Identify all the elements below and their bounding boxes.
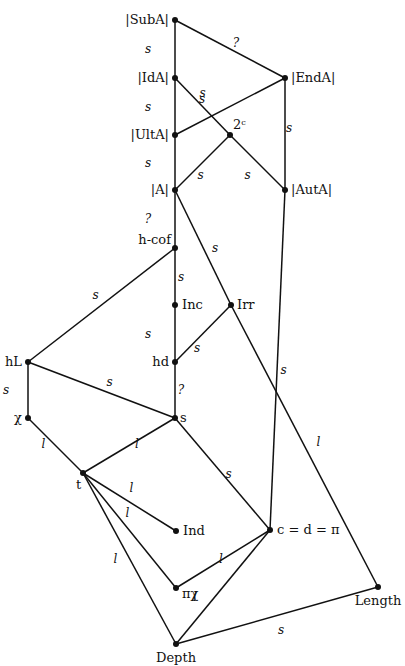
edge-label: s — [145, 327, 151, 341]
node-dot-s — [172, 415, 178, 421]
node-dot-IdA — [172, 75, 178, 81]
edge-label: s — [145, 42, 151, 56]
node-label-hL: hL — [5, 354, 22, 369]
edge-2c-AutA — [230, 135, 285, 190]
node-label-s: s — [180, 410, 187, 425]
edge-label: ? — [145, 212, 152, 226]
edge-label: s — [197, 168, 203, 182]
edge-hcof-hL — [28, 248, 175, 362]
node-label-hd: hd — [152, 354, 169, 369]
edge-label: s — [194, 341, 200, 355]
edge-label: l — [126, 506, 130, 520]
edge-2c-A — [175, 135, 230, 190]
edge-label: ? — [233, 36, 240, 50]
edge-label: s — [280, 363, 286, 377]
node-label-Ind: Ind — [183, 523, 205, 538]
nodes-layer: |SubA||IdA||EndA||UltA|2ᶜ|A||AutA|h-cofI… — [5, 12, 402, 665]
node-dot-pichi — [173, 585, 179, 591]
edge-Irr-hd — [175, 305, 231, 362]
edge-hL-s — [28, 362, 175, 418]
edge-label: s — [145, 156, 151, 170]
edges-layer — [28, 20, 378, 644]
node-dot-EndA — [282, 75, 288, 81]
edge-label: s — [278, 623, 284, 637]
node-dot-hL — [25, 359, 31, 365]
node-label-hcof: h-cof — [138, 232, 172, 247]
node-dot-chi — [25, 415, 31, 421]
edge-AutA-cdpi — [270, 190, 285, 530]
node-label-AutA: |AutA| — [291, 182, 332, 197]
node-dot-UltA — [172, 132, 178, 138]
edge-t-Depth — [83, 473, 176, 644]
edge-label: ? — [178, 383, 185, 397]
node-dot-AutA — [282, 187, 288, 193]
edge-s-t — [83, 418, 175, 473]
edge-label: s — [106, 375, 112, 389]
edge-label: s — [225, 467, 231, 481]
node-label-2c: 2ᶜ — [233, 117, 246, 132]
edge-label: s — [3, 383, 9, 397]
edge-label: s — [178, 270, 184, 284]
node-label-IdA: |IdA| — [137, 70, 169, 85]
edge-label: s — [199, 92, 205, 106]
node-dot-hd — [172, 359, 178, 365]
node-dot-hcof — [172, 245, 178, 251]
node-label-SubA: |SubA| — [125, 12, 169, 27]
node-dot-Depth — [173, 641, 179, 647]
node-dot-Irr — [228, 302, 234, 308]
node-dot-2c — [227, 132, 233, 138]
node-label-A: |A| — [151, 182, 169, 197]
edge-pichi-cdpi — [176, 530, 270, 588]
edge-SubA-EndA — [175, 20, 285, 78]
edge-label: l — [219, 552, 223, 566]
edge-label: s — [145, 100, 151, 114]
hasse-diagram: s?sssssss?sssssl?sssllsllllls |SubA||IdA… — [0, 0, 405, 666]
node-dot-t — [80, 470, 86, 476]
node-label-t: t — [76, 477, 82, 492]
node-label-pichi: πχ — [182, 586, 199, 601]
edge-label: l — [114, 552, 118, 566]
node-dot-A — [172, 187, 178, 193]
node-dot-Ind — [173, 528, 179, 534]
node-label-Irr: Irr — [237, 297, 255, 312]
node-dot-SubA — [172, 17, 178, 23]
edge-label: s — [92, 288, 98, 302]
node-label-cdpi: c = d = π — [277, 522, 340, 537]
edge-label: l — [130, 481, 134, 495]
node-label-Depth: Depth — [156, 650, 197, 665]
node-label-Length: Length — [355, 593, 402, 608]
node-label-UltA: |UltA| — [131, 127, 170, 142]
node-dot-Inc — [172, 302, 178, 308]
edge-label: l — [135, 437, 139, 451]
edge-label: s — [212, 241, 218, 255]
edge-label: s — [244, 168, 250, 182]
edge-chi-t — [28, 418, 83, 473]
edge-UltA-EndA — [175, 78, 285, 135]
node-label-chi: χ — [14, 410, 22, 425]
node-label-Inc: Inc — [182, 297, 203, 312]
edge-label: s — [286, 121, 292, 135]
edge-s-cdpi — [175, 418, 270, 530]
edge-A-Irr — [175, 190, 231, 305]
node-dot-cdpi — [267, 527, 273, 533]
node-label-EndA: |EndA| — [291, 70, 335, 85]
edge-label: l — [317, 435, 321, 449]
edge-Irr-Length — [231, 305, 378, 587]
node-dot-Length — [375, 584, 381, 590]
edge-label: l — [42, 437, 46, 451]
